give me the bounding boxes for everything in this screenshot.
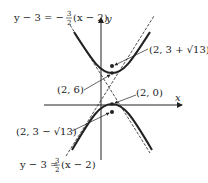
lower-focus-label: (2, 3 − √13) — [16, 126, 77, 137]
svg-text:2: 2 — [55, 166, 59, 174]
upper-asymptote-equation: y − 3 = − 3 2 (x − 2) — [13, 10, 108, 27]
svg-text:2: 2 — [67, 19, 71, 27]
svg-text:3: 3 — [55, 157, 59, 165]
lower-focus-leader — [72, 113, 109, 131]
svg-text:3: 3 — [67, 10, 71, 18]
upper-focus-label: (2, 3 + √13) — [149, 44, 208, 55]
upper-vertex-point — [110, 71, 114, 75]
upper-focus-point — [110, 64, 114, 68]
x-axis-label: x — [175, 92, 181, 103]
lower-vertex-point — [110, 102, 114, 106]
lower-vertex-label: (2, 0) — [136, 87, 163, 98]
lower-vertex-leader — [115, 95, 136, 103]
svg-text:y − 3 =: y − 3 = — [19, 159, 58, 170]
lower-asymptote-equation: y − 3 = 3 2 (x − 2) — [19, 157, 96, 174]
svg-text:(x − 2): (x − 2) — [73, 12, 108, 23]
hyperbola-diagram: x y y − 3 = − 3 2 (x − 2) (2, 6) (2, 3 +… — [0, 0, 208, 183]
svg-text:y − 3 = −: y − 3 = − — [13, 12, 64, 23]
upper-vertex-label: (2, 6) — [57, 84, 84, 95]
lower-focus-point — [110, 110, 114, 114]
svg-text:(x − 2): (x − 2) — [61, 159, 96, 170]
